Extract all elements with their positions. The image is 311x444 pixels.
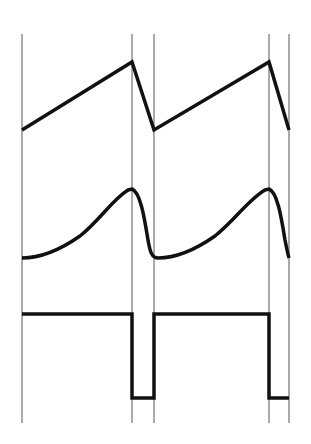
square-waveform (22, 314, 289, 398)
sawtooth-waveform (22, 62, 289, 130)
smooth-waveform (22, 189, 289, 258)
timing-diagram (0, 0, 311, 444)
